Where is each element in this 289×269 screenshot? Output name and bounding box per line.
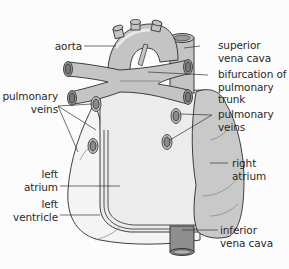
label-pulmonary-veins-right: pulmonary veins xyxy=(218,108,274,133)
heart-diagram: aorta pulmonary veins left atrium left v… xyxy=(0,0,289,269)
label-bifurcation-pulmonary-trunk: bifurcation of pulmonary trunk xyxy=(218,68,286,106)
label-superior-vena-cava: superior vena cava xyxy=(218,39,271,64)
label-right-atrium: right atrium xyxy=(232,157,266,182)
label-aorta: aorta xyxy=(52,40,82,53)
label-inferior-vena-cava: inferior vena cava xyxy=(220,224,273,249)
label-left-ventricle: left ventricle xyxy=(6,198,58,223)
label-left-atrium: left atrium xyxy=(16,168,58,193)
left-atrium-shape xyxy=(100,90,205,232)
label-pulmonary-veins-left: pulmonary veins xyxy=(2,90,58,115)
